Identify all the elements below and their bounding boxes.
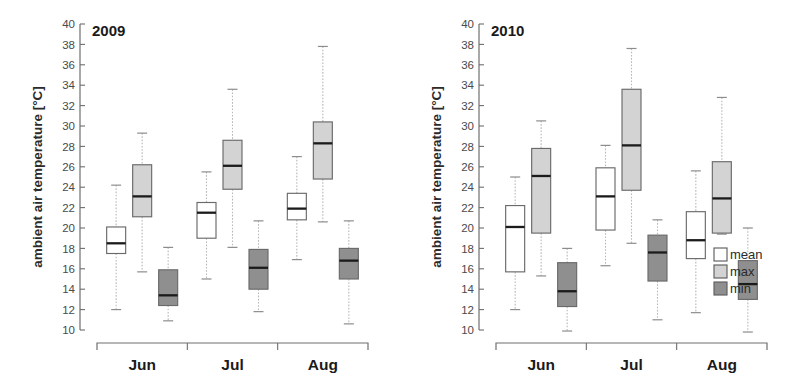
- x-category-label-Jun: Jun: [128, 356, 156, 373]
- y-tick-label: 18: [62, 243, 75, 255]
- box-2010-Aug-mean: [686, 171, 705, 313]
- panel-title-2009: 2009: [92, 22, 125, 39]
- box-body: [506, 206, 525, 272]
- legend-item-mean[interactable]: mean: [714, 247, 763, 262]
- box-body: [686, 212, 705, 259]
- y-tick-label: 12: [62, 304, 75, 316]
- y-tick-label: 20: [62, 222, 75, 234]
- box-body: [558, 263, 577, 307]
- box-body: [339, 248, 358, 279]
- y-tick-label: 24: [461, 181, 474, 193]
- y-tick-label: 24: [62, 181, 75, 193]
- legend-label-mean: mean: [730, 247, 763, 262]
- y-tick-label: 16: [62, 263, 75, 275]
- y-tick-label: 40: [62, 18, 75, 30]
- y-tick-label: 16: [461, 263, 474, 275]
- box-body: [622, 89, 641, 190]
- y-tick-label: 14: [461, 283, 474, 295]
- y-tick-label: 26: [461, 161, 474, 173]
- y-tick-label: 30: [62, 120, 75, 132]
- box-2009-Aug-min: [339, 221, 358, 324]
- x-category-label-Jun: Jun: [527, 356, 555, 373]
- box-2009-Jul-mean: [197, 172, 216, 279]
- y-tick-label: 22: [62, 202, 75, 214]
- y-axis-title: ambient air temperature [°C]: [429, 86, 444, 268]
- y-tick-label: 34: [461, 79, 474, 91]
- box-body: [133, 165, 152, 217]
- box-body: [648, 235, 667, 281]
- y-tick-label: 36: [461, 59, 474, 71]
- y-tick-label: 18: [461, 243, 474, 255]
- legend-item-min[interactable]: min: [714, 281, 751, 296]
- x-axis-bracket: [97, 343, 368, 350]
- panel-title-2010: 2010: [491, 22, 524, 39]
- box-2009-Jun-min: [159, 247, 178, 320]
- x-axis-bracket: [496, 343, 767, 350]
- boxplot-figure: 40383634323028262422201816141210ambient …: [0, 0, 797, 382]
- y-tick-label: 32: [62, 100, 75, 112]
- y-tick-label: 38: [62, 39, 75, 51]
- y-tick-label: 12: [461, 304, 474, 316]
- y-tick-label: 20: [461, 222, 474, 234]
- box-body: [596, 168, 615, 230]
- y-tick-label: 14: [62, 283, 75, 295]
- box-body: [287, 193, 306, 220]
- y-tick-label: 34: [62, 79, 75, 91]
- legend-swatch-mean: [714, 248, 727, 261]
- y-tick-label: 36: [62, 59, 75, 71]
- legend-item-max[interactable]: max: [714, 264, 755, 279]
- y-tick-label: 30: [461, 120, 474, 132]
- y-tick-label: 38: [461, 39, 474, 51]
- panel-2010: 40383634323028262422201816141210ambient …: [429, 18, 767, 373]
- box-2010-Jun-max: [532, 121, 551, 276]
- box-2009-Aug-mean: [287, 157, 306, 260]
- legend-label-max: max: [730, 264, 755, 279]
- legend-swatch-max: [714, 265, 727, 278]
- y-tick-label: 22: [461, 202, 474, 214]
- box-body: [532, 148, 551, 233]
- box-2010-Jul-max: [622, 48, 641, 243]
- legend-label-min: min: [730, 281, 751, 296]
- y-tick-label: 40: [461, 18, 474, 30]
- x-category-label-Aug: Aug: [308, 356, 338, 373]
- legend-swatch-min: [714, 282, 727, 295]
- box-body: [249, 249, 268, 289]
- y-tick-label: 28: [62, 141, 75, 153]
- box-body: [197, 203, 216, 239]
- box-2009-Jul-min: [249, 221, 268, 312]
- box-body: [313, 122, 332, 179]
- y-tick-label: 32: [461, 100, 474, 112]
- box-2010-Jul-min: [648, 220, 667, 320]
- box-2010-Jun-mean: [506, 177, 525, 310]
- x-category-label-Jul: Jul: [620, 356, 642, 373]
- box-2009-Jun-max: [133, 133, 152, 272]
- box-2009-Aug-max: [313, 46, 332, 221]
- box-body: [107, 227, 126, 254]
- box-2010-Jul-mean: [596, 145, 615, 265]
- panel-2009: 40383634323028262422201816141210ambient …: [30, 18, 368, 373]
- box-2009-Jun-mean: [107, 185, 126, 309]
- box-body: [159, 270, 178, 306]
- y-tick-label: 10: [461, 324, 474, 336]
- y-tick-label: 28: [461, 141, 474, 153]
- x-category-label-Jul: Jul: [221, 356, 243, 373]
- y-tick-label: 10: [62, 324, 75, 336]
- x-category-label-Aug: Aug: [707, 356, 737, 373]
- box-2009-Jul-max: [223, 89, 242, 247]
- y-tick-label: 26: [62, 161, 75, 173]
- box-2010-Aug-max: [712, 97, 731, 234]
- y-axis-title: ambient air temperature [°C]: [30, 86, 45, 268]
- box-2010-Jun-min: [558, 248, 577, 331]
